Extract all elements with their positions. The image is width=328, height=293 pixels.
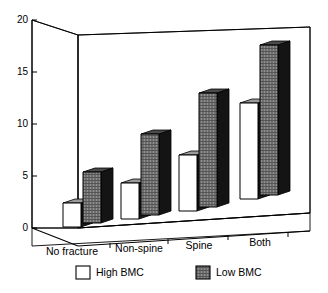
category-label-non-spine: Non-spine	[115, 242, 163, 254]
legend-swatch-low-bmc	[196, 266, 210, 279]
bar-chart-3d: 20 15 10 5 0	[0, 0, 328, 293]
bar-group-both	[240, 41, 290, 199]
category-label-no-fracture: No fracture	[46, 245, 98, 257]
bar-both-low-bmc	[260, 41, 290, 195]
legend-label-high-bmc: High BMC	[96, 266, 144, 278]
legend-swatch-high-bmc	[76, 266, 90, 279]
y-axis-ticks: 20 15 10 5 0	[17, 14, 37, 233]
y-label-5: 5	[22, 170, 28, 181]
bar-spine-low-bmc	[199, 89, 229, 207]
frame-top-back-edge	[78, 27, 310, 35]
y-label-15: 15	[17, 66, 29, 77]
y-label-0: 0	[22, 222, 28, 233]
x-axis-front	[32, 228, 78, 246]
legend-label-low-bmc: Low BMC	[216, 266, 262, 278]
chart-container: 20 15 10 5 0	[0, 0, 328, 293]
y-label-20: 20	[17, 14, 29, 25]
bar-non-spine-low-bmc	[141, 130, 171, 215]
bar-group-spine	[179, 89, 229, 211]
y-label-10: 10	[17, 118, 29, 129]
frame-top-left-edge	[32, 20, 78, 35]
bar-group-no-fracture	[63, 168, 113, 227]
chart-legend: High BMC Low BMC	[76, 266, 262, 279]
left-wall	[32, 20, 78, 228]
bar-no-fracture-low-bmc	[83, 168, 113, 223]
bar-group-non-spine	[121, 130, 171, 219]
category-label-both: Both	[249, 236, 271, 248]
category-label-spine: Spine	[186, 239, 213, 251]
